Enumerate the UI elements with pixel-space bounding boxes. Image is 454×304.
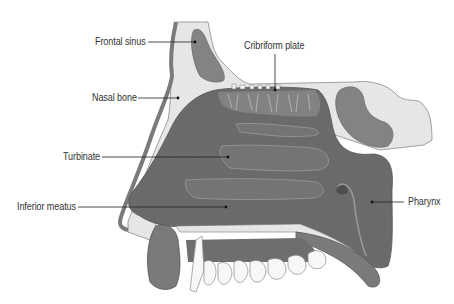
upper-lip xyxy=(148,225,180,290)
label-inferior-meatus: Inferior meatus xyxy=(17,200,76,212)
label-turbinate: Turbinate xyxy=(63,150,100,162)
label-pharynx: Pharynx xyxy=(408,195,441,207)
middle-turbinate xyxy=(220,145,329,171)
inferior-turbinate xyxy=(185,179,323,200)
label-nasal-bone: Nasal bone xyxy=(92,91,137,103)
label-frontal-sinus: Frontal sinus xyxy=(95,35,146,47)
label-cribriform-plate: Cribriform plate xyxy=(244,39,304,51)
